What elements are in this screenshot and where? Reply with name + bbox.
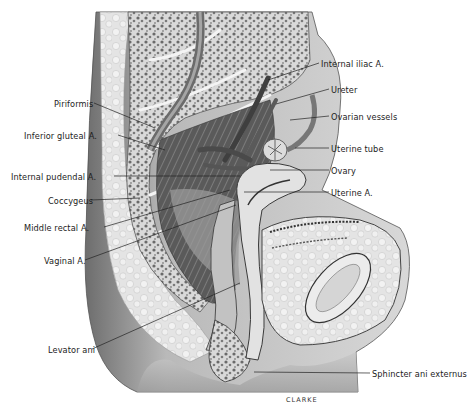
label-ovarian-vessels: Ovarian vessels: [331, 112, 397, 122]
artist-signature: CLARKE: [286, 396, 318, 404]
label-internal-pudendal-artery: Internal pudendal A.: [11, 172, 96, 182]
label-ureter: Ureter: [331, 85, 357, 95]
label-middle-rectal-artery: Middle rectal A.: [24, 223, 89, 233]
label-vaginal-artery: Vaginal A.: [44, 256, 86, 266]
label-ovary: Ovary: [331, 166, 356, 176]
label-sphincter-ani-externus: Sphincter ani externus: [372, 369, 467, 379]
label-coccygeus: Coccygeus: [48, 196, 93, 206]
label-levator-ani: Levator ani: [48, 345, 95, 355]
label-inferior-gluteal-artery: Inferior gluteal A.: [24, 131, 97, 141]
label-uterine-artery: Uterine A.: [331, 188, 373, 198]
label-piriformis: Piriformis: [54, 99, 93, 109]
ovary: [263, 139, 287, 161]
label-uterine-tube: Uterine tube: [331, 144, 384, 154]
label-internal-iliac-artery: Internal iliac A.: [321, 59, 384, 69]
